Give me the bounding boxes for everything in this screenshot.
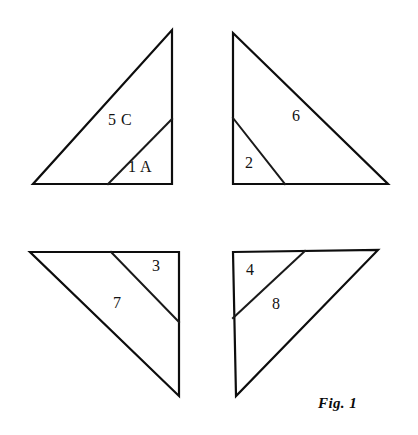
piece-label-7: 7 xyxy=(113,295,122,311)
piece-label-6: 6 xyxy=(292,108,301,124)
shape-bottom-right-triangle xyxy=(233,250,378,396)
figure-drawing xyxy=(0,0,418,435)
bottom-right-triangle-outline xyxy=(233,250,378,396)
shape-top-right-triangle xyxy=(233,33,388,184)
figure-canvas: 5 C 1 A 6 2 3 7 4 8 Fig. 1 xyxy=(0,0,418,435)
piece-label-4: 4 xyxy=(246,262,255,278)
top-right-triangle-outline xyxy=(233,33,388,184)
figure-caption: Fig. 1 xyxy=(318,396,357,411)
piece-label-2: 2 xyxy=(245,155,254,171)
piece-label-5c: 5 C xyxy=(108,112,132,128)
piece-label-8: 8 xyxy=(272,296,281,312)
piece-label-3: 3 xyxy=(152,258,161,274)
piece-label-1a: 1 A xyxy=(128,159,152,175)
